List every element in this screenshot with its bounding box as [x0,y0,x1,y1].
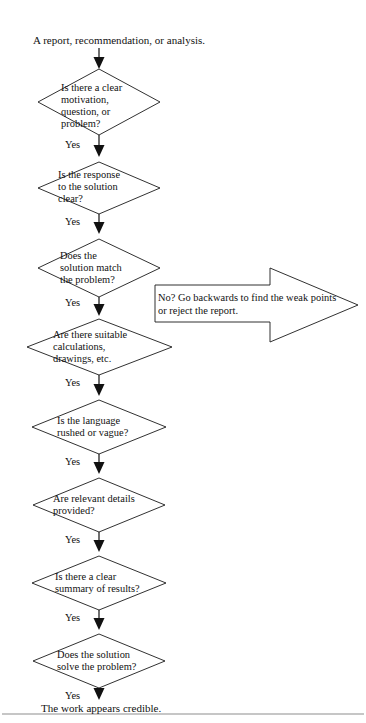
decision-response-clear-line-2: to the solution [58,181,118,194]
start-label: A report, recommendation, or analysis. [33,34,205,47]
decision-language-rushed-line-1: Is the language [57,415,120,428]
yes-label-7: Yes [65,612,80,624]
decision-solution-match-line-1: Does the [60,250,97,263]
connector-d7-to-d8 [94,610,105,630]
yes-label-4: Yes [65,377,80,389]
connector-d3-to-d4 [94,297,105,316]
decision-summary-of-results-line-2: summary of results? [55,583,140,596]
callout-arrow-line-1: No? Go backwards to find the weak points [158,291,336,304]
yes-label-5: Yes [65,456,80,468]
end-label: The work appears credible. [41,702,161,715]
connector-start-to-d1 [94,48,105,69]
decision-solution-match-line-2: solution match [60,262,122,275]
connector-d6-to-d7 [94,532,105,552]
yes-label-6: Yes [65,534,80,546]
decision-response-clear-line-1: Is the response [58,169,120,182]
decision-response-clear-line-3: clear? [58,193,83,206]
decision-language-rushed-line-2: rushed or vague? [57,427,128,440]
decision-solve-problem-line-2: solve the problem? [57,661,136,674]
decision-relevant-details-line-2: provided? [53,505,95,518]
connector-d5-to-d6 [94,454,105,474]
decision-clear-motivation-line-1: Is there a clear [61,82,122,95]
callout-arrow-line-2: or reject the report. [158,304,238,317]
connector-d1-to-d2 [94,135,105,157]
decision-suitable-calculations-line-3: drawings, etc. [53,353,111,366]
decision-relevant-details-line-1: Are relevant details [53,493,135,506]
decision-clear-motivation-line-3: question, or [61,106,110,119]
connector-d2-to-d3 [94,214,105,234]
yes-label-2: Yes [65,216,80,228]
yes-label-8: Yes [65,690,80,702]
connector-d4-to-d5 [94,375,105,396]
connector-d8-to-end [94,688,105,700]
decision-suitable-calculations-line-1: Are there suitable [53,329,127,342]
decision-clear-motivation-line-4: problem? [61,118,100,131]
decision-solve-problem-line-1: Does the solution [57,649,130,662]
yes-label-3: Yes [65,297,80,309]
decision-summary-of-results-line-1: Is there a clear [55,571,116,584]
decision-suitable-calculations-line-2: calculations, [53,341,105,354]
flowchart-canvas: A report, recommendation, or analysis. I… [0,0,366,723]
yes-label-1: Yes [65,139,80,151]
decision-solution-match-line-3: the problem? [60,274,115,287]
decision-clear-motivation-line-2: motivation, [61,94,109,107]
